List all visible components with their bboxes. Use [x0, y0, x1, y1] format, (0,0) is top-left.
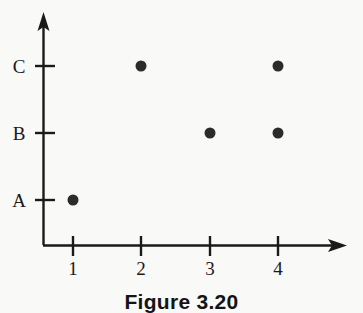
data-point	[205, 128, 216, 139]
horizontal-axis	[43, 239, 347, 252]
data-point-group	[68, 61, 284, 206]
x-tick-label-1: 1	[60, 259, 86, 278]
x-tick-label-2: 2	[128, 259, 154, 278]
y-tick-label-a: A	[8, 191, 30, 210]
scatter-plot: A B C 1 2 3 4	[0, 0, 363, 285]
x-tick-label-4: 4	[265, 259, 291, 278]
vertical-axis	[38, 12, 50, 245]
plot-canvas	[0, 0, 363, 285]
x-tick-label-3: 3	[197, 259, 223, 278]
figure-caption: Figure 3.20	[0, 291, 363, 312]
data-point	[273, 61, 284, 72]
data-point	[273, 128, 284, 139]
y-tick-label-c: C	[8, 57, 30, 76]
y-axis-ticks	[35, 66, 55, 200]
y-tick-label-b: B	[8, 124, 30, 143]
data-point	[68, 195, 79, 206]
data-point	[136, 61, 147, 72]
figure-container: A B C 1 2 3 4 Figure 3.20	[0, 0, 363, 313]
